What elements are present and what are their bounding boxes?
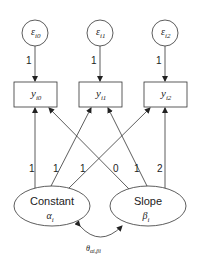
observed-node-1: yi1 xyxy=(79,82,122,107)
error-loading-2: 1 xyxy=(156,55,162,66)
loading-label-1: 1 xyxy=(53,163,59,174)
slope-to-y0-arrow xyxy=(49,108,130,190)
covariance-label: θαi,βi xyxy=(86,244,101,254)
covariance-arrow xyxy=(80,226,122,237)
constant-to-y1-arrow xyxy=(50,108,91,188)
loading-label-5: 2 xyxy=(157,163,163,174)
latent-slope: Slope βi xyxy=(110,186,186,226)
loading-label-4: 1 xyxy=(134,163,140,174)
error-loading-1: 1 xyxy=(91,55,97,66)
error-node-0: εi0 xyxy=(22,20,48,46)
latent-constant: Constant αi xyxy=(14,186,90,226)
error-node-2: εi2 xyxy=(152,20,178,46)
error-loading-0: 1 xyxy=(26,55,32,66)
svg-text:Constant: Constant xyxy=(30,195,74,207)
observed-node-2: yi2 xyxy=(144,82,187,107)
slope-to-y1-arrow xyxy=(108,108,148,188)
svg-text:Slope: Slope xyxy=(134,195,162,207)
constant-to-y2-arrow xyxy=(67,108,150,190)
loading-label-0: 1 xyxy=(29,163,35,174)
growth-curve-diagram: εi0 εi1 εi2 1 1 1 yi0 yi1 yi2 1 1 1 0 1 … xyxy=(0,0,197,265)
observed-node-0: yi0 xyxy=(14,82,57,107)
error-node-1: εi1 xyxy=(87,20,113,46)
loading-label-2: 1 xyxy=(80,163,86,174)
loading-label-3: 0 xyxy=(113,163,119,174)
